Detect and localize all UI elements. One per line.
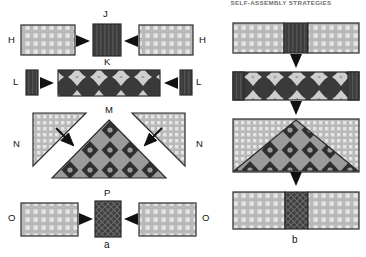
- assembly-step-1: [233, 23, 359, 66]
- piece-H-right: [139, 25, 193, 55]
- running-header: SELF-ASSEMBLY STRATEGIES: [196, 0, 366, 8]
- piece-H-left: [21, 25, 75, 55]
- step1-left-block: [233, 23, 284, 53]
- label-J: J: [103, 9, 108, 19]
- assembly-diagram: [0, 0, 366, 257]
- step4-left-block: [233, 192, 285, 229]
- label-N-right: N: [196, 139, 203, 149]
- label-L-left: L: [13, 77, 18, 87]
- piece-L-right: [180, 70, 192, 95]
- assembly-step-4: [233, 192, 359, 229]
- figure-root: SELF-ASSEMBLY STRATEGIES: [0, 0, 366, 257]
- step2-left-cap: [233, 72, 244, 100]
- piece-K-center: [58, 70, 160, 96]
- panel-label-a: a: [104, 239, 110, 250]
- row-H-J: [21, 24, 193, 56]
- label-M: M: [105, 105, 113, 115]
- label-O-left: O: [8, 213, 15, 223]
- piece-L-left: [26, 70, 38, 95]
- label-L-right: L: [196, 77, 201, 87]
- assembly-step-2: [233, 72, 359, 113]
- piece-O-right: [139, 203, 196, 236]
- step2-right-cap: [348, 72, 359, 100]
- label-P: P: [104, 188, 110, 198]
- label-N-left: N: [13, 139, 20, 149]
- step2-star-bar: [233, 72, 359, 100]
- piece-J-center: [93, 24, 121, 56]
- piece-P-center: [95, 201, 121, 237]
- step4-right-block: [308, 192, 359, 229]
- step1-center-insert: [284, 23, 308, 53]
- label-K: K: [104, 57, 110, 67]
- row-N-M: [33, 113, 185, 178]
- panel-label-b: b: [292, 234, 298, 245]
- piece-O-left: [21, 203, 78, 236]
- step1-right-block: [308, 23, 359, 53]
- label-H-left: H: [8, 35, 15, 45]
- step4-center-insert: [285, 192, 308, 229]
- row-O-P: [21, 201, 196, 237]
- label-H-right: H: [199, 35, 206, 45]
- row-L-K: [26, 70, 192, 96]
- assembly-step-3: [233, 119, 359, 184]
- label-O-right: O: [202, 213, 209, 223]
